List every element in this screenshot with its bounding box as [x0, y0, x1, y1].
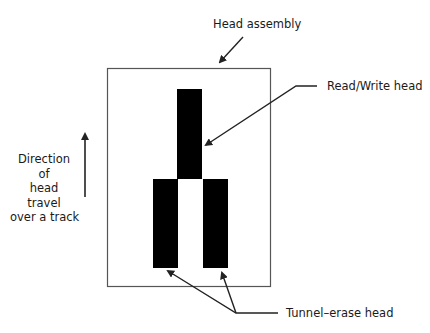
direction-line: travel	[10, 196, 78, 211]
read-write-head	[177, 89, 202, 179]
tunnel-erase-head-right	[203, 179, 228, 268]
tunnel-erase-head-left	[153, 179, 178, 268]
direction-line: over a track	[10, 210, 78, 225]
tunnel-erase-head-label: Tunnel–erase head	[286, 306, 393, 321]
read-write-head-label: Read/Write head	[327, 79, 423, 94]
direction-line: Direction	[10, 152, 78, 167]
read-write-arrow	[206, 86, 317, 145]
head-assembly-label: Head assembly	[213, 17, 301, 32]
direction-line: head	[10, 181, 78, 196]
head-assembly-arrow	[220, 37, 243, 62]
direction-label: Direction of head travel over a track	[10, 152, 78, 225]
direction-line: of	[10, 167, 78, 182]
tunnel-erase-arrow-right	[222, 273, 236, 313]
